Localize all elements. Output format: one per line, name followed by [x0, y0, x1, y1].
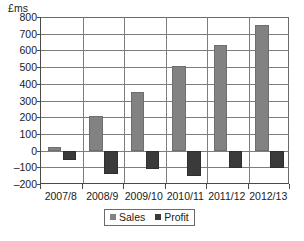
gridline-vertical: [124, 17, 125, 183]
legend-item-label: Sales: [119, 211, 145, 223]
legend-swatch-icon: [155, 214, 161, 220]
y-axis-tick-labels: 8007006005004003002001000–100–200: [0, 17, 37, 184]
x-axis-tick-mark: [248, 184, 249, 189]
x-axis-tick-mark: [123, 184, 124, 189]
bar-chart: £ms 8007006005004003002001000–100–200 20…: [0, 0, 304, 241]
bar-sales-2011-12: [214, 45, 228, 150]
gridline-vertical: [207, 17, 208, 183]
bar-profit-2010-11: [187, 151, 201, 176]
x-axis-tick-label: 2008/9: [86, 190, 118, 202]
gridline-vertical: [83, 17, 84, 183]
x-axis-tick-mark: [165, 184, 166, 189]
bar-sales-2008-9: [89, 116, 103, 150]
legend-swatch-icon: [110, 214, 116, 220]
y-axis-tick-label: 600: [1, 45, 37, 55]
bar-sales-2009-10: [131, 92, 145, 150]
bar-sales-2010-11: [172, 66, 186, 150]
y-axis-tick-label: 200: [1, 112, 37, 122]
legend-item-profit: Profit: [155, 211, 189, 223]
x-axis-tick-mark: [82, 184, 83, 189]
x-axis-tick-label: 2012/13: [249, 190, 287, 202]
y-axis-tick-label: 500: [1, 62, 37, 72]
y-axis-tick-label: 400: [1, 79, 37, 89]
x-axis-tick-label: 2009/10: [125, 190, 163, 202]
bar-profit-2007-8: [63, 151, 77, 160]
bar-profit-2009-10: [146, 151, 160, 169]
x-axis-tick-mark: [40, 184, 41, 189]
x-axis-tick-mark: [289, 184, 290, 189]
x-axis-tick-mark: [206, 184, 207, 189]
y-axis-tick-label: 0: [1, 146, 37, 156]
bar-profit-2012-13: [270, 151, 284, 169]
x-axis-tick-label: 2007/8: [45, 190, 77, 202]
x-axis-tick-labels: 2007/82008/92009/102010/112011/122012/13: [40, 190, 289, 204]
y-axis-tick-label: 100: [1, 129, 37, 139]
plot-area: [40, 17, 289, 184]
y-axis-tick-label: 700: [1, 29, 37, 39]
gridline-vertical: [249, 17, 250, 183]
bar-profit-2008-9: [104, 151, 118, 174]
gridline-vertical: [166, 17, 167, 183]
bar-sales-2007-8: [48, 147, 62, 150]
y-axis-tick-label: 300: [1, 96, 37, 106]
x-axis-tick-label: 2010/11: [167, 190, 204, 202]
y-axis-tick-label: –100: [1, 162, 37, 172]
y-axis-tick-label: –200: [1, 179, 37, 189]
legend-item-label: Profit: [164, 211, 189, 223]
legend-item-sales: Sales: [110, 211, 145, 223]
x-axis-tick-label: 2011/12: [208, 190, 245, 202]
chart-legend: SalesProfit: [104, 209, 195, 226]
y-axis-tick-label: 800: [1, 12, 37, 22]
bar-sales-2012-13: [255, 25, 269, 151]
bar-profit-2011-12: [229, 151, 243, 169]
